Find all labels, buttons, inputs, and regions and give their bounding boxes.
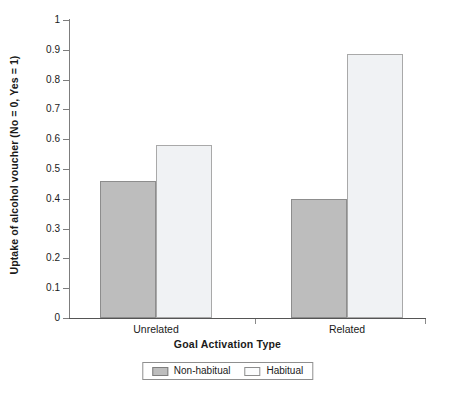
y-axis-title: Uptake of alcohol voucher (No = 0, Yes =… [4, 0, 24, 330]
legend-item-habitual: Habitual [245, 366, 304, 376]
legend-swatch-habitual-icon [245, 367, 261, 376]
y-axis-tick [63, 318, 69, 319]
bar-related-habitual [347, 54, 403, 318]
y-axis-tick [63, 20, 69, 21]
bar-unrelated-non-habitual [100, 181, 156, 318]
x-axis-tick-right [425, 319, 426, 324]
y-axis-tick-label: 0.2 [26, 253, 60, 263]
y-axis-tick [63, 80, 69, 81]
y-axis-tick-label: 0.8 [26, 75, 60, 85]
x-axis-line [69, 318, 426, 319]
y-axis-tick [63, 288, 69, 289]
bar-chart-figure: Uptake of alcohol voucher (No = 0, Yes =… [0, 0, 455, 395]
y-axis-tick [63, 109, 69, 110]
y-axis-tick [63, 229, 69, 230]
legend-item-non-habitual: Non-habitual [152, 366, 231, 376]
y-axis-title-text: Uptake of alcohol voucher (No = 0, Yes =… [8, 56, 20, 275]
y-axis-tick-label: 0.1 [26, 283, 60, 293]
y-axis-tick-label: 0.5 [26, 164, 60, 174]
y-axis-tick [63, 139, 69, 140]
x-axis-tick-mid [255, 319, 256, 324]
y-axis-tick [63, 169, 69, 170]
y-axis-tick-label: 0.6 [26, 134, 60, 144]
plot-area [70, 20, 425, 318]
y-axis-tick [63, 50, 69, 51]
y-axis-tick-label: 0.7 [26, 104, 60, 114]
x-axis-title: Goal Activation Type [0, 338, 455, 350]
y-axis-tick-label: 0.3 [26, 224, 60, 234]
chart-legend: Non-habitual Habitual [142, 362, 313, 380]
x-axis-category-unrelated: Unrelated [86, 323, 226, 335]
y-axis-tick [63, 258, 69, 259]
legend-label-non-habitual: Non-habitual [174, 366, 231, 376]
y-axis-tick-label: 1 [26, 15, 60, 25]
y-axis-tick-label: 0.9 [26, 45, 60, 55]
y-axis-tick [63, 199, 69, 200]
y-axis-tick-label: 0 [26, 313, 60, 323]
y-axis-tick-label: 0.4 [26, 194, 60, 204]
legend-label-habitual: Habitual [267, 366, 304, 376]
legend-swatch-non-habitual-icon [152, 367, 168, 376]
bar-related-non-habitual [291, 199, 347, 318]
x-axis-category-related: Related [277, 323, 417, 335]
bar-unrelated-habitual [156, 145, 212, 318]
